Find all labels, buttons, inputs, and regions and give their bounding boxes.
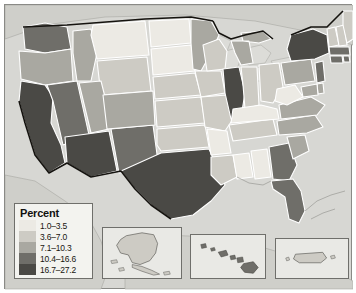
legend-label-5: 16.7–27.2 [40, 265, 76, 275]
state-ND[interactable] [149, 19, 191, 47]
state-CT[interactable] [330, 56, 343, 63]
state-AR[interactable] [207, 129, 231, 155]
inset-puerto-rico[interactable] [275, 238, 349, 279]
state-MT[interactable] [91, 21, 149, 59]
state-CO[interactable] [103, 91, 155, 129]
legend-title: Percent [20, 207, 88, 219]
hawaii-shape [191, 235, 265, 278]
legend-swatch-1 [19, 220, 36, 231]
state-WY[interactable] [97, 57, 151, 95]
state-AZ[interactable] [65, 131, 117, 177]
state-FL[interactable] [271, 179, 305, 223]
legend-label-4: 10.4–16.6 [40, 254, 76, 264]
legend-swatch-3 [19, 242, 36, 253]
legend-label-2: 3.6–7.0 [40, 232, 67, 242]
puerto-rico-shape [276, 239, 348, 278]
legend-row[interactable]: 10.4–16.6 [19, 253, 88, 264]
map-frame: Percent 1.0–3.5 3.6–7.0 7.1–10.3 10.4–16… [4, 4, 352, 289]
state-MA[interactable] [329, 47, 350, 55]
legend-label-3: 7.1–10.3 [40, 243, 72, 253]
state-WA[interactable] [23, 23, 71, 53]
inset-hawaii[interactable] [190, 234, 266, 279]
inset-alaska[interactable] [102, 227, 182, 279]
legend-swatch-5 [19, 264, 36, 275]
state-AL[interactable] [251, 149, 271, 179]
map-legend: Percent 1.0–3.5 3.6–7.0 7.1–10.3 10.4–16… [14, 203, 93, 279]
legend-row[interactable]: 1.0–3.5 [19, 220, 88, 231]
legend-swatch-4 [19, 253, 36, 264]
state-MD[interactable] [301, 84, 318, 97]
legend-swatch-2 [19, 231, 36, 242]
legend-row[interactable]: 7.1–10.3 [19, 242, 88, 253]
state-RI[interactable] [343, 56, 350, 62]
state-PA[interactable] [281, 59, 315, 85]
states-west[interactable] [19, 21, 159, 177]
legend-row[interactable]: 16.7–27.2 [19, 264, 88, 275]
state-KS[interactable] [155, 97, 205, 127]
state-OR[interactable] [19, 49, 73, 85]
legend-row[interactable]: 3.6–7.0 [19, 231, 88, 242]
legend-label-1: 1.0–3.5 [40, 221, 67, 231]
state-NJ[interactable] [315, 61, 325, 83]
alaska-shape [103, 228, 181, 278]
state-NE[interactable] [153, 73, 201, 99]
map-figure: Percent 1.0–3.5 3.6–7.0 7.1–10.3 10.4–16… [0, 0, 356, 293]
state-MS[interactable] [233, 153, 253, 179]
state-SD[interactable] [151, 45, 195, 75]
state-OK[interactable] [157, 125, 209, 151]
